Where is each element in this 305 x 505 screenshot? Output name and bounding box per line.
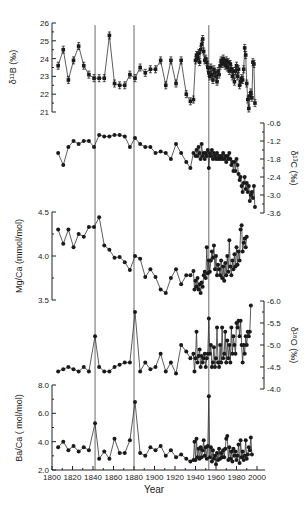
BaCa-tick-label: 6.0 [38,409,50,418]
d18O-tick-label: -4.0 [267,385,281,394]
data-point [223,261,227,265]
data-point [211,448,215,452]
data-point [118,255,122,259]
x-tick-label: 1880 [125,473,143,482]
data-point [82,64,86,68]
MgCa-axis-title: Mg/Ca (mmol/mol) [14,219,24,293]
data-point [227,445,231,449]
data-point [198,347,202,351]
d13C-tick-label: -3.6 [267,209,281,218]
data-point [236,325,240,329]
data-point [224,273,228,277]
data-point [118,451,122,455]
data-point [227,151,231,155]
data-point [236,263,240,267]
data-point [217,267,221,271]
data-point [202,438,206,442]
data-point [249,91,253,95]
d11B-tick-label: 22 [40,90,49,99]
data-point [208,270,212,274]
data-point [123,135,127,139]
data-point [61,163,65,167]
data-point [179,151,183,155]
data-point [174,455,178,459]
data-point [66,365,70,369]
data-point [213,365,217,369]
data-point [174,372,178,376]
data-point [240,223,244,227]
data-point [253,205,257,209]
data-point [179,59,183,63]
data-point [138,451,142,455]
data-point [72,444,76,448]
data-point [227,343,231,347]
data-point [217,365,221,369]
data-point [238,461,242,465]
data-point [148,145,152,149]
data-point [77,232,81,236]
data-point [102,243,106,247]
data-point [199,291,203,295]
data-point [87,73,91,77]
data-point [188,356,192,360]
data-point [210,73,214,77]
data-point [92,145,96,149]
data-point [249,303,253,307]
data-point [148,367,152,371]
data-point [102,76,106,80]
data-point [205,245,209,249]
d18O-tick-label: -4.5 [267,363,281,372]
data-point [148,445,152,449]
data-point [213,267,217,271]
data-point [56,151,60,155]
data-point [201,448,205,452]
data-point [97,133,101,137]
data-point [207,166,211,170]
data-point [82,445,86,449]
data-point [169,157,173,161]
data-point [206,66,210,70]
data-point [66,448,70,452]
data-point [224,361,228,365]
data-point [138,257,142,261]
data-point [82,365,86,369]
d18O-tick-label: -6.0 [267,297,281,306]
data-point [189,100,193,104]
data-point [246,452,250,456]
data-point [133,400,137,404]
data-point [253,101,257,105]
d11B-tick-label: 24 [40,55,49,64]
data-point [226,356,230,360]
MgCa-tick-label: 3.5 [38,296,50,305]
data-point [102,135,106,139]
data-point [223,330,227,334]
data-point [241,450,245,454]
data-point [238,258,242,262]
data-point [227,238,231,242]
x-tick-label: 1860 [105,473,123,482]
data-point [184,273,188,277]
data-point [247,184,251,188]
data-point [241,78,245,82]
data-point [214,75,218,79]
d11B-tick-label: 25 [40,37,49,46]
data-point [239,438,243,442]
data-point [72,139,76,143]
d13C-tick-label: -2.4 [267,173,281,182]
data-point [235,458,239,462]
data-point [241,190,245,194]
data-point [138,369,142,373]
data-point [164,84,168,88]
data-point [243,352,247,356]
data-point [233,80,237,84]
data-point [230,258,234,262]
data-point [97,457,101,461]
d11B-tick-label: 26 [40,19,49,28]
data-point [225,339,229,343]
data-point [236,163,240,167]
data-point [169,361,173,365]
data-point [244,438,248,442]
data-point [143,361,147,365]
d13C-tick-label: -3.0 [267,191,281,200]
data-point [209,66,213,70]
